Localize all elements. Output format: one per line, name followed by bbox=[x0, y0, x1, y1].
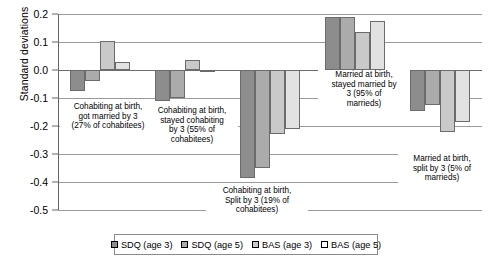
bar bbox=[255, 70, 270, 168]
bar bbox=[355, 32, 370, 70]
bar bbox=[155, 70, 170, 101]
y-tick-label: -0.1 bbox=[0, 92, 48, 104]
y-axis-line bbox=[58, 14, 59, 210]
legend-label: SDQ (age 3) bbox=[121, 240, 173, 250]
bar bbox=[240, 70, 255, 178]
bar bbox=[285, 70, 300, 129]
bar-chart: Standard deviations 0.20.10.0-0.1-0.2-0.… bbox=[0, 0, 488, 263]
legend-swatch-icon bbox=[252, 241, 259, 248]
chart-legend: SDQ (age 3) SDQ (age 5) BAS (age 3) BAS … bbox=[114, 234, 378, 255]
category-annotation: Cohabiting at birth, got married by 3 (2… bbox=[60, 102, 156, 131]
bar bbox=[455, 70, 470, 122]
legend-swatch-icon bbox=[111, 241, 118, 248]
legend-item[interactable]: BAS (age 3) bbox=[252, 240, 312, 250]
bar bbox=[370, 21, 385, 70]
gridline bbox=[58, 14, 482, 15]
gridline bbox=[58, 42, 482, 43]
bar bbox=[70, 70, 85, 91]
legend-label: SDQ (age 5) bbox=[191, 240, 243, 250]
bar bbox=[170, 70, 185, 98]
bar bbox=[425, 70, 440, 105]
category-annotation: Married at birth, split by 3 (5% of marr… bbox=[398, 154, 486, 183]
category-annotation: Cohabiting at birth, Split by 3 (19% of … bbox=[206, 186, 308, 215]
bar bbox=[200, 70, 215, 72]
bar bbox=[185, 60, 200, 70]
bar bbox=[85, 70, 100, 81]
y-tick-label: -0.2 bbox=[0, 120, 48, 132]
legend-swatch-icon bbox=[181, 241, 188, 248]
legend-swatch-icon bbox=[321, 241, 328, 248]
bar bbox=[410, 70, 425, 111]
bar bbox=[325, 17, 340, 70]
bar bbox=[115, 62, 130, 70]
legend-label: BAS (age 5) bbox=[331, 240, 381, 250]
bar bbox=[440, 70, 455, 132]
plot-area: Cohabiting at birth, got married by 3 (2… bbox=[58, 14, 482, 210]
y-tick-label: 0.2 bbox=[0, 8, 48, 20]
bar bbox=[270, 70, 285, 134]
bar bbox=[340, 17, 355, 70]
y-tick-label: 0.1 bbox=[0, 36, 48, 48]
y-tick-label: -0.5 bbox=[0, 204, 48, 216]
legend-item[interactable]: SDQ (age 5) bbox=[181, 240, 243, 250]
legend-item[interactable]: BAS (age 5) bbox=[321, 240, 381, 250]
category-annotation: Cohabiting at birth, stayed cohabiting b… bbox=[146, 106, 238, 144]
y-tick-label: 0.0 bbox=[0, 64, 48, 76]
y-tick-label: -0.4 bbox=[0, 176, 48, 188]
legend-label: BAS (age 3) bbox=[262, 240, 312, 250]
legend-item[interactable]: SDQ (age 3) bbox=[111, 240, 173, 250]
category-annotation: Married at birth, stayed married by 3 (9… bbox=[318, 70, 410, 108]
bar bbox=[100, 41, 115, 70]
y-tick-label: -0.3 bbox=[0, 148, 48, 160]
